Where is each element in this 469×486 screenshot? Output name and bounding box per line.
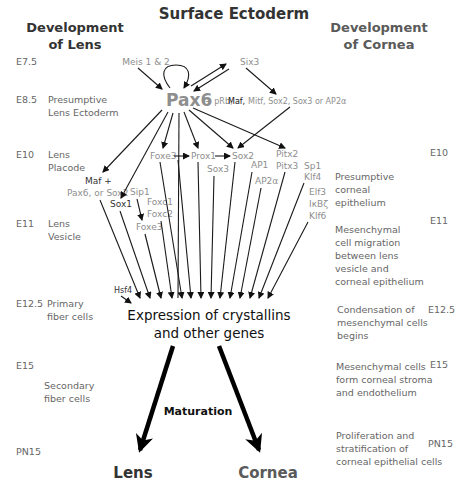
gene-sp1: Sp1 [304,161,321,171]
cornea-e15-label-1: Mesenchymal cells [336,361,426,372]
gene-elf3: Elf3 [309,187,326,197]
cornea-e11-label-1: Mesenchymal [335,224,400,235]
gene-meis: Meis 1 & 2 [122,57,170,67]
cornea-e11-label-5: corneal epithelium [335,276,424,287]
cornea-stage-pn15: PN15 [428,438,453,449]
gene-pitx3: Pitx3 [276,161,298,171]
cornea-e12-5-label-2: mesenchymal cells [337,317,428,328]
gene-maf-plus: Maf + [85,176,112,186]
lens-stage-e10: E10 [16,149,34,160]
cornea-e12-5-label-3: begins [337,330,369,341]
gene-sip1: Sip1 [130,187,150,197]
maturation-arrow-lens [140,346,173,450]
lens-stage-e8-5-label-1: Presumptive [48,94,107,105]
lens-stage-e10-label-2: Placode [48,162,85,173]
gene-sox3: Sox3 [207,164,229,174]
cornea-stage-e12-5: E12.5 [428,304,455,315]
lens-stage-list: E7.5 E8.5 Presumptive Lens Ectoderm E10 … [16,56,119,457]
gene-network: Meis 1 & 2 Six3 Pax6 + pRb, Maf, Mitf, S… [67,57,346,295]
gene-foxe3-lower: Foxe3 [136,222,162,232]
cornea-pn15-label-3: corneal epithelial cells [336,456,442,467]
cornea-stage-list: E10 Presumptive corneal epithelium E11 M… [335,147,455,467]
lens-stage-e8-5: E8.5 [16,94,37,105]
cornea-e10-label-3: epithelium [335,197,386,208]
cornea-e11-label-4: vesicle and [335,263,389,274]
lens-stage-e12-5: E12.5 [16,298,43,309]
cornea-header-line2: of Cornea [344,37,415,52]
lens-stage-pn15: PN15 [16,446,41,457]
expression-line-1: Expression of crystallins [127,307,290,323]
gene-ap1: AP1 [251,160,268,170]
gene-six3: Six3 [240,57,259,67]
cornea-header-line1: Development [330,20,427,35]
cornea-e12-5-label-1: Condensation of [337,304,415,315]
expression-line-2: and other genes [154,325,265,341]
lens-header-line1: Development [26,20,123,35]
ectoderm-diagram: Surface Ectoderm Development of Lens Dev… [0,0,469,486]
lens-stage-e12-5-label-2: fiber cells [47,311,93,322]
lens-secondary-label-1: Secondary [44,380,95,391]
pax6-partners-rest: Mitf, Sox2, Sox3 or AP2α [248,97,346,106]
lens-stage-e11: E11 [16,218,34,229]
outcome-lens: Lens [113,464,152,482]
lens-stage-e7-5: E7.5 [16,56,37,67]
pax6-partners-maf: Maf, [228,97,245,106]
lens-secondary-label-2: fiber cells [44,393,90,404]
cornea-stage-e10: E10 [430,147,448,158]
gene-foxc1: Foxc1 [147,197,173,207]
cornea-e11-label-3: between lens [335,250,399,261]
lens-stage-e10-label-1: Lens [48,149,70,160]
cornea-pn15-label-2: stratification of [336,443,409,454]
lens-header-line2: of Lens [48,37,101,52]
cornea-stage-e15: E15 [430,359,448,370]
maturation-label: Maturation [164,405,233,418]
gene-prox1: Prox1 [191,151,216,161]
cornea-e15-label-2: form corneal stroma [336,374,433,385]
gene-klf6: Klf6 [309,211,327,221]
lens-stage-e12-5-label-1: Primary [47,298,84,309]
cornea-stage-e11: E11 [430,215,448,226]
maturation-arrow-cornea [219,346,259,450]
lens-stage-e11-label-2: Vesicle [48,231,81,242]
gene-hsf4: Hsf4 [114,286,132,295]
gene-ap2a: AP2α [255,176,278,186]
gene-sox1: Sox1 [110,199,132,209]
lens-stage-e8-5-label-2: Lens Ectoderm [48,107,119,118]
gene-foxe3-upper: Foxe3 [150,151,176,161]
cornea-e10-label-2: corneal [335,184,370,195]
lens-stage-e11-label-1: Lens [48,218,70,229]
cornea-e10-label-1: Presumptive [335,171,394,182]
diagram-title: Surface Ectoderm [159,5,309,23]
gene-maf-partners: Pax6, or Sox2 [67,188,128,198]
gene-klf4: Klf4 [304,172,322,182]
outcome-cornea: Cornea [238,464,298,482]
lens-stage-e15: E15 [16,360,34,371]
gene-pitx2: Pitx2 [276,149,298,159]
cornea-e15-label-3: and endothelium [336,387,417,398]
cornea-pn15-label-1: Proliferation and [336,430,414,441]
cornea-e11-label-2: cell migration [335,237,400,248]
gene-ikbz: IκBζ [309,199,328,209]
